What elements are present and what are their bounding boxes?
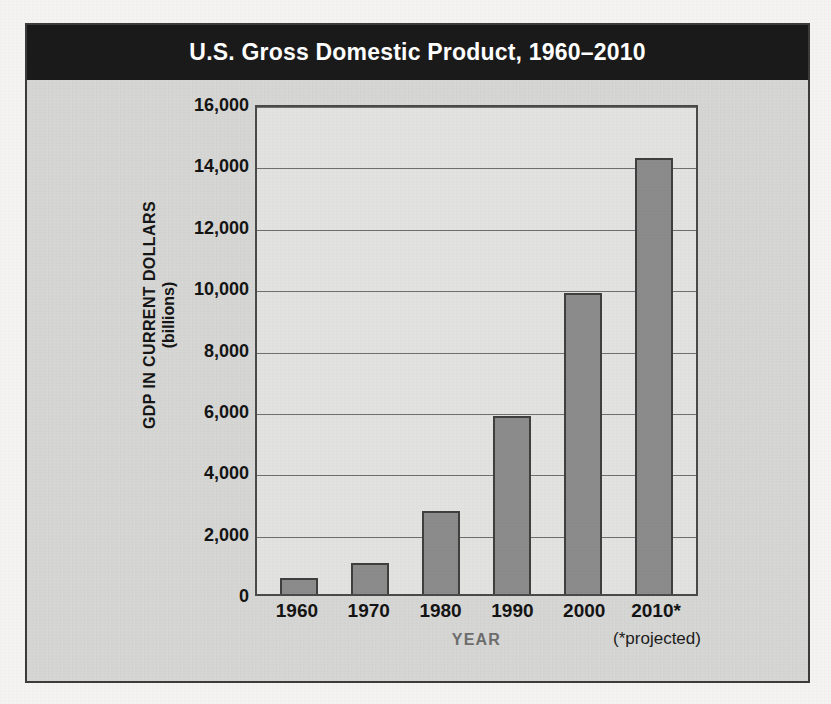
bar-slot — [477, 107, 548, 594]
x-axis-tick-label: 1960 — [261, 600, 333, 630]
y-axis-tick-label: 16,000 — [194, 95, 249, 116]
y-axis-tick-label: 6,000 — [204, 401, 249, 422]
plot-area — [255, 105, 698, 596]
bar-slot — [405, 107, 476, 594]
x-axis-tick-label: 1990 — [476, 600, 548, 630]
x-axis-tick-label: 2000 — [548, 600, 620, 630]
x-axis-tick-labels: 196019701980199020002010* — [255, 600, 698, 630]
y-axis-tick-label: 12,000 — [194, 217, 249, 238]
bar-slot — [619, 107, 690, 594]
bar-slot — [334, 107, 405, 594]
bar-1970 — [351, 563, 389, 594]
bar-2000 — [564, 293, 602, 594]
chart-title: U.S. Gross Domestic Product, 1960–2010 — [189, 39, 645, 66]
bar-1960 — [280, 578, 318, 594]
bar-series — [257, 107, 696, 594]
x-axis-tick-label: 2010* — [620, 600, 692, 630]
y-axis-tick-label: 14,000 — [194, 156, 249, 177]
projected-footnote: (*projected) — [587, 629, 727, 649]
bar-2010 — [635, 158, 673, 594]
bar-slot — [548, 107, 619, 594]
x-axis-tick-label: 1970 — [333, 600, 405, 630]
y-axis-tick-label: 8,000 — [204, 340, 249, 361]
y-axis-tick-label: 0 — [239, 586, 249, 607]
x-axis-tick-label: 1980 — [405, 600, 477, 630]
y-axis-tick-label: 2,000 — [204, 524, 249, 545]
bar-slot — [263, 107, 334, 594]
bar-1990 — [493, 416, 531, 594]
y-axis-tick-label: 10,000 — [194, 279, 249, 300]
bar-1980 — [422, 511, 460, 594]
chart-figure: U.S. Gross Domestic Product, 1960–2010 G… — [25, 23, 810, 683]
chart-title-banner: U.S. Gross Domestic Product, 1960–2010 — [27, 25, 808, 80]
y-axis-tick-label: 4,000 — [204, 463, 249, 484]
y-axis-tick-labels: 02,0004,0006,0008,00010,00012,00014,0001… — [137, 105, 249, 596]
